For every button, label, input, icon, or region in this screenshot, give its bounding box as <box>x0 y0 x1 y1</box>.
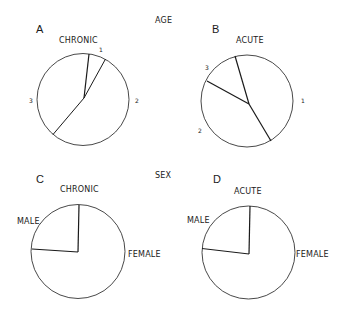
panel-c-subtitle: CHRONIC <box>60 186 99 194</box>
pie-c <box>31 205 125 299</box>
pie-c-label-female: FEMALE <box>128 251 161 259</box>
pie-d <box>202 206 295 299</box>
group-title-sex: SEX <box>155 172 171 180</box>
panel-a-subtitle: CHRONIC <box>59 37 98 45</box>
pie-b-label-3: 3 <box>205 65 209 71</box>
pie-b <box>201 55 293 147</box>
pie-charts <box>0 0 341 312</box>
pie-b-label-1: 1 <box>301 98 305 104</box>
pie-a-label-1: 1 <box>99 47 103 53</box>
group-title-age: AGE <box>155 17 172 25</box>
pie-a-label-2: 2 <box>135 98 139 104</box>
panel-d-subtitle: ACUTE <box>234 188 262 196</box>
pie-d-label-female: FEMALE <box>296 251 329 259</box>
pie-a <box>37 54 129 146</box>
panel-b-subtitle: ACUTE <box>236 37 264 45</box>
panel-letter-b: B <box>212 24 219 35</box>
pie-a-label-3: 3 <box>29 98 33 104</box>
panel-letter-a: A <box>36 24 43 35</box>
panel-letter-d: D <box>213 174 221 185</box>
pie-d-label-male: MALE <box>187 217 210 225</box>
panel-letter-c: C <box>36 174 44 185</box>
pie-b-label-2: 2 <box>198 128 202 134</box>
pie-c-label-male: MALE <box>17 218 40 226</box>
